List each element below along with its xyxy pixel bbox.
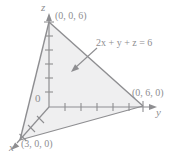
plane-equation-label: 2x + y + z = 6 (96, 38, 152, 48)
z-axis-label: z (41, 2, 45, 13)
point-label-x-intercept: (3, 0, 0) (21, 139, 53, 149)
origin-label: 0 (35, 93, 41, 104)
y-axis-label: y (156, 107, 161, 118)
diagram-canvas (0, 0, 176, 158)
point-label-y-intercept: (0, 6, 0) (132, 88, 164, 98)
x-axis-label: x (9, 142, 14, 153)
point-label-z-intercept: (0, 0, 6) (55, 11, 87, 21)
plane-diagram-figure: z y x 0 (0, 0, 6) (0, 6, 0) (3, 0, 0) 2x… (0, 0, 176, 158)
z-axis-arrowhead (46, 13, 52, 21)
